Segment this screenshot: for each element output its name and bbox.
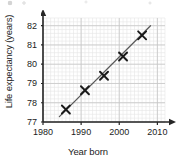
life-expectancy-scatter-chart: 777879808182 1980199020002010 Life expec… — [0, 0, 176, 165]
plot-area — [43, 18, 165, 122]
x-axis-tick-label: 2000 — [109, 127, 129, 137]
plot-svg — [41, 10, 176, 128]
x-axis-tick-label: 1990 — [71, 127, 91, 137]
x-axis-tick-label: 1980 — [33, 127, 53, 137]
y-axis-title: Life expectancy (years) — [3, 0, 14, 127]
scan-artifact-strip — [0, 0, 176, 8]
x-axis-tick-label: 2010 — [147, 127, 167, 137]
x-axis-title: Year born — [0, 146, 176, 157]
